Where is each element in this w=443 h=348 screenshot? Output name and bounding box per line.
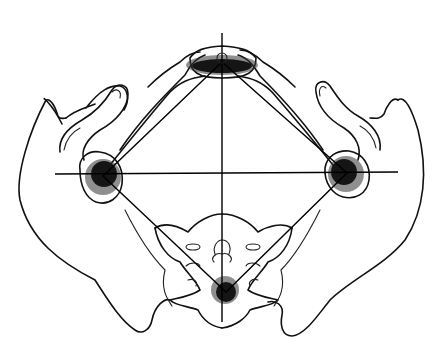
- sacral-foramen-l1: [186, 244, 200, 250]
- pelvis-diagram: [0, 0, 443, 348]
- sacral-foramen-r1: [246, 244, 260, 250]
- right-ear-inner: [319, 86, 376, 148]
- right-ear-shape: [316, 82, 381, 160]
- left-ear-inner: [64, 90, 120, 150]
- sacrum-upper-contour: [155, 214, 292, 232]
- right-iliac-wing: [268, 99, 424, 336]
- left-ear-shape: [60, 85, 128, 160]
- diagonal-quadrilateral: [103, 62, 347, 292]
- right-iliac-crest-notch: [370, 99, 398, 118]
